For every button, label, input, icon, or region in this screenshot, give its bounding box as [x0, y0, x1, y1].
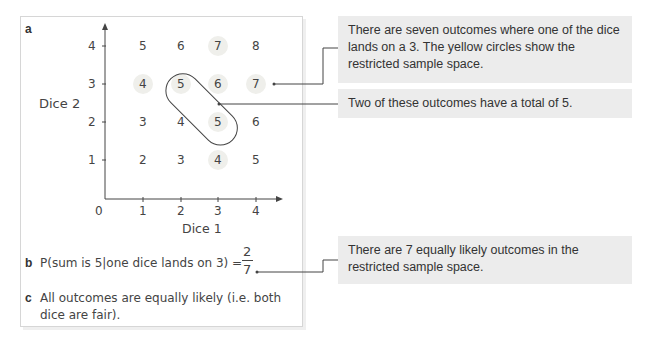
part-c-line-2: dice are fair).: [40, 308, 120, 322]
y-axis-label: Dice 2: [39, 96, 80, 111]
callout-equally-likely: There are 7 equally likely outcomes in t…: [338, 236, 632, 284]
grid-cell: 5: [177, 77, 185, 91]
y-tick-label: 4: [88, 39, 96, 53]
grid-cell: 5: [252, 153, 260, 167]
part-b-label: b: [25, 256, 32, 270]
grid-cell: 6: [214, 77, 222, 91]
x-tick-label: 1: [139, 204, 147, 218]
grid-cell: 2: [139, 153, 147, 167]
sum-five-loop: [159, 67, 245, 153]
part-c-label: c: [25, 291, 32, 305]
x-axis-arrow-icon: [276, 196, 283, 202]
grid-cell: 5: [139, 39, 147, 53]
grid-cell: 8: [252, 39, 260, 53]
grid-cell: 4: [177, 115, 185, 129]
fraction-bar: [242, 260, 253, 261]
y-tick-label: 3: [88, 77, 96, 91]
fraction-numerator: 2: [243, 244, 251, 259]
restricted-sample-space-circles: [133, 36, 266, 170]
fraction-denominator: 7: [243, 262, 251, 277]
y-tick-label: 1: [88, 153, 96, 167]
x-tick-label: 2: [177, 204, 185, 218]
y-axis-arrow-icon: [102, 23, 108, 30]
conditional-probability-expression: P(sum is 5|one dice lands on 3) =: [40, 256, 242, 270]
leader-dot: [218, 103, 221, 106]
leader-dot: [256, 271, 259, 274]
x-axis-label: Dice 1: [182, 221, 222, 236]
leader-dot: [273, 83, 276, 86]
grid-cell: 7: [214, 39, 222, 53]
y-tick-label: 2: [88, 115, 96, 129]
grid-cell: 6: [252, 115, 260, 129]
callout-total-of-five: Two of these outcomes have a total of 5.: [338, 89, 632, 118]
grid-cell: 3: [177, 153, 185, 167]
x-tick-label: 3: [214, 204, 222, 218]
origin-label: 0: [95, 204, 103, 218]
grid-cell: 7: [252, 77, 260, 91]
grid-cell: 4: [139, 77, 147, 91]
callout-restricted-sample-space: There are seven outcomes where one of th…: [338, 16, 632, 83]
grid-cell: 5: [214, 115, 222, 129]
part-c-line-1: All outcomes are equally likely (i.e. bo…: [40, 291, 281, 305]
grid-cell: 3: [139, 115, 147, 129]
x-tick-label: 4: [252, 204, 260, 218]
grid-cell: 4: [214, 153, 222, 167]
grid-cell: 6: [177, 39, 185, 53]
leader-lines: [219, 48, 338, 272]
